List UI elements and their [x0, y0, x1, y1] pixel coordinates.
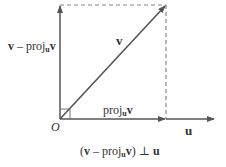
perpendicular-symbol: ⊥ — [136, 144, 153, 158]
u-symbol: u — [153, 144, 160, 158]
projection-diagram: v – projuv v projuv O u (v – projuv) ⊥ u — [0, 0, 226, 167]
origin-label: O — [51, 121, 60, 133]
perp-component-label: v – projuv — [8, 40, 56, 54]
proj-text: proj — [102, 144, 121, 158]
caption: (v – projuv) ⊥ u — [80, 145, 160, 159]
v-symbol: v — [127, 103, 133, 117]
diagram-canvas — [0, 0, 226, 167]
u-label: u — [185, 124, 192, 137]
minus-sign: – — [14, 39, 26, 53]
v-label: v — [116, 34, 123, 47]
proj-text: proj — [26, 39, 45, 53]
proj-text: proj — [103, 103, 122, 117]
projection-label: projuv — [103, 104, 133, 118]
minus-sign: – — [90, 144, 102, 158]
v-symbol: v — [50, 39, 56, 53]
